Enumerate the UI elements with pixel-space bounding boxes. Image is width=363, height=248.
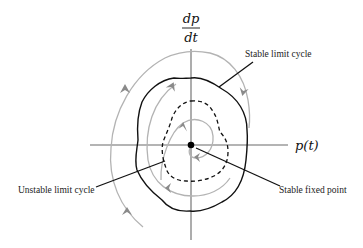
y-axis-label-numerator: dp [183, 11, 200, 26]
y-axis-label-denominator: dt [184, 30, 198, 45]
stable-limit-cycle-label: Stable limit cycle [245, 49, 311, 59]
y-axis-label: dp dt [182, 11, 200, 45]
trajectory-arrow-icon [120, 84, 130, 93]
stable-fixed-point-label: Stable fixed point [279, 185, 347, 195]
x-axis-label: p(t) [295, 138, 319, 153]
inner-trajectory [161, 120, 213, 180]
trajectory-arrow-icon [122, 207, 132, 215]
unstable-limit-cycle [162, 101, 228, 181]
stable-fixed-point [188, 142, 195, 149]
stable-limit-cycle-pointer [219, 62, 253, 87]
stable-fixed-point-pointer [196, 148, 280, 186]
middle-trajectory [147, 84, 230, 196]
trajectory-arrow-icon [166, 80, 178, 91]
phase-portrait-diagram: dp dt p(t) Stable limit cycle Unstable l… [0, 0, 363, 248]
unstable-limit-cycle-pointer [96, 161, 165, 187]
unstable-limit-cycle-label: Unstable limit cycle [18, 185, 95, 195]
trajectory-arrow-icon [165, 183, 171, 193]
